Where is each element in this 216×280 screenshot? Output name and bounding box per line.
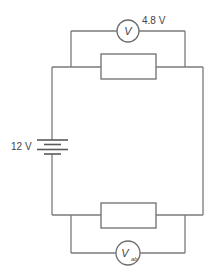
bottom-voltmeter-subscript: ab <box>131 256 138 262</box>
battery-voltage-label: 12 V <box>11 141 32 152</box>
top-voltmeter-reading: 4.8 V <box>142 15 166 26</box>
top-resistor <box>101 54 156 79</box>
bottom-voltmeter: V ab <box>116 241 140 265</box>
circuit-diagram: V 4.8 V V ab 12 V <box>0 0 216 280</box>
battery-cell-icon <box>37 140 68 154</box>
main-circuit-wires <box>52 67 203 215</box>
bottom-resistor <box>101 203 156 228</box>
top-voltmeter: V <box>117 20 139 42</box>
